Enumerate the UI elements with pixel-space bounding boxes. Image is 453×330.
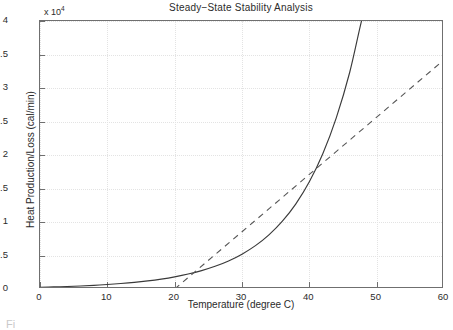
caption-fragment: Fi [6, 318, 15, 330]
series-heat-production-curve [40, 21, 370, 287]
y-axis-exponent-power: 4 [61, 5, 65, 12]
y-tick-label: 2 [3, 149, 8, 159]
data-series-layer [40, 21, 442, 287]
x-axis-title: Temperature (degree C) [39, 299, 443, 310]
y-tick-label: 1 [3, 216, 8, 226]
series-heat-removal-line [175, 60, 442, 287]
plot-inner [40, 21, 442, 287]
y-tick-label: 0.5 [0, 250, 8, 260]
y-tick-label: 3 [3, 82, 8, 92]
y-axis-title: Heat Production/Loss (cal/min) [25, 65, 36, 255]
chart-title: Steady−State Stability Analysis [39, 2, 443, 13]
y-tick-label: 4 [3, 15, 8, 25]
y-axis-exponent-prefix: x 10 [44, 7, 61, 17]
y-tick-label: 1.5 [0, 183, 8, 193]
y-axis-exponent-label: x 104 [44, 5, 65, 17]
figure-canvas: Steady−State Stability Analysis x 104 00… [0, 0, 453, 330]
plot-area [39, 20, 443, 288]
y-tick-label: 2.5 [0, 116, 8, 126]
y-tick-label: 0 [3, 283, 8, 293]
y-tick-label: 3.5 [0, 49, 8, 59]
